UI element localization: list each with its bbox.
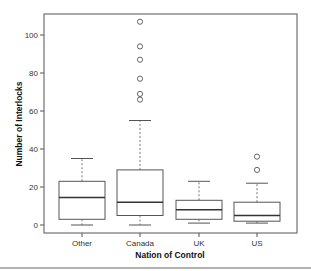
y-tick-label: 100	[25, 31, 39, 40]
box-other	[59, 159, 105, 226]
x-axis-title: Nation of Control	[135, 250, 204, 260]
boxes	[59, 19, 280, 225]
x-tick-label: UK	[193, 239, 205, 248]
x-tick-label: Other	[72, 239, 92, 248]
y-tick-label: 60	[29, 107, 38, 116]
outlier-point	[137, 44, 142, 49]
outlier-point	[137, 76, 142, 81]
outlier-point	[137, 91, 142, 96]
iqr-box	[59, 181, 105, 219]
box-uk	[176, 181, 222, 223]
outlier-point	[254, 167, 259, 172]
y-tick-label: 0	[34, 221, 39, 230]
outlier-point	[137, 19, 142, 24]
outlier-point	[137, 57, 142, 62]
y-tick-label: 20	[29, 183, 38, 192]
iqr-box	[117, 170, 163, 216]
outlier-point	[254, 154, 259, 159]
y-tick-label: 80	[29, 69, 38, 78]
box-canada	[117, 19, 163, 225]
box-us	[234, 154, 280, 223]
y-axis-title: Number of Interlocks	[14, 81, 24, 166]
y-tick-label: 40	[29, 145, 38, 154]
x-tick-label: US	[251, 239, 262, 248]
x-tick-label: Canada	[126, 239, 155, 248]
outlier-point	[137, 97, 142, 102]
boxplot-chart: 020406080100 OtherCanadaUKUS Nation of C…	[0, 0, 311, 271]
y-axis: 020406080100	[25, 31, 44, 230]
x-axis: OtherCanadaUKUS	[72, 233, 263, 248]
iqr-box	[234, 202, 280, 221]
